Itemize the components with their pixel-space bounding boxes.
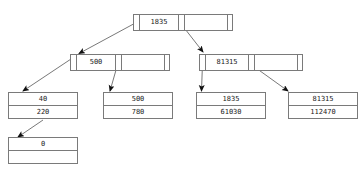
root-blank-cell[interactable] (184, 14, 228, 31)
leaf-node-1-row-0[interactable]: 40 (8, 92, 78, 106)
leaf-node-1-row-1[interactable]: 220 (8, 105, 78, 119)
leaf-node-4-row-1[interactable]: 112470 (288, 105, 358, 119)
leaf-node-4-row-0[interactable]: 81315 (288, 92, 358, 106)
inner-right-key-cell-0[interactable]: 81315 (205, 54, 249, 71)
leaf-node-overflow-row-0[interactable]: 0 (8, 137, 78, 151)
root-tail-cell[interactable] (227, 14, 233, 31)
edge-root-to-inner-left (79, 24, 134, 54)
inner-node-left[interactable]: 500 (70, 54, 169, 71)
leaf-node-overflow[interactable]: 0 (8, 137, 78, 163)
leaf-node-3[interactable]: 1835 61030 (196, 92, 266, 118)
edge-inner-left-to-leaf-1 (23, 57, 74, 91)
root-key-cell-0[interactable]: 1835 (139, 14, 179, 31)
inner-left-blank-cell[interactable] (121, 54, 165, 71)
edge-leaf-1-to-overflow (18, 120, 43, 137)
leaf-node-3-row-0[interactable]: 1835 (196, 92, 266, 106)
root-node[interactable]: 1835 (133, 14, 232, 31)
leaf-node-4[interactable]: 81315 112470 (288, 92, 358, 118)
inner-right-tail-cell[interactable] (297, 54, 303, 71)
btree-diagram-canvas: 1835 500 81315 40 220 500 780 1835 61030… (0, 0, 361, 178)
leaf-node-3-row-1[interactable]: 61030 (196, 105, 266, 119)
inner-right-blank-cell[interactable] (254, 54, 298, 71)
leaf-node-2-row-0[interactable]: 500 (103, 92, 173, 106)
inner-left-tail-cell[interactable] (164, 54, 170, 71)
leaf-node-2-row-1[interactable]: 780 (103, 105, 173, 119)
inner-node-right[interactable]: 81315 (199, 54, 302, 71)
inner-left-key-cell-0[interactable]: 500 (76, 54, 116, 71)
leaf-node-1[interactable]: 40 220 (8, 92, 78, 118)
leaf-node-2[interactable]: 500 780 (103, 92, 173, 118)
leaf-node-overflow-row-1[interactable] (8, 150, 78, 164)
